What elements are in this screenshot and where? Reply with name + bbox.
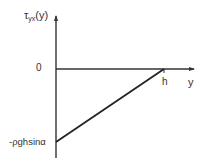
- y-axis-label: y: [188, 77, 194, 88]
- tau-axis-label: τyx(y): [24, 10, 48, 22]
- h-label: h: [162, 77, 168, 87]
- stress-profile-line: [56, 69, 164, 142]
- min-stress-label: -ρghsinα: [9, 137, 46, 147]
- origin-label: 0: [36, 63, 42, 73]
- tau-argument: (y): [35, 9, 48, 21]
